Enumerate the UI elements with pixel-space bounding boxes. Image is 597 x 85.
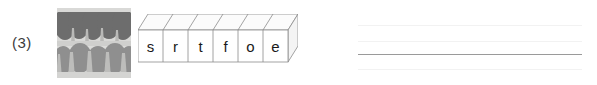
letter-box-row: s r t f o e bbox=[138, 14, 298, 68]
rule-line-3 bbox=[358, 54, 582, 55]
worksheet-exercise-row: (3) bbox=[0, 0, 597, 85]
letter-cell-6: e bbox=[271, 38, 279, 55]
letter-cell-1: s bbox=[147, 38, 155, 55]
rule-line-1 bbox=[358, 25, 582, 26]
forest-photo-graphic bbox=[57, 8, 131, 78]
letter-cell-2: r bbox=[173, 38, 178, 55]
rule-line-4 bbox=[358, 69, 582, 70]
forest-photo bbox=[57, 8, 131, 78]
letter-cell-5: o bbox=[246, 38, 254, 55]
letter-boxes-graphic: s r t f o e bbox=[138, 14, 298, 68]
rule-line-2 bbox=[358, 41, 582, 42]
item-number-label: (3) bbox=[12, 34, 32, 51]
answer-writing-area[interactable] bbox=[358, 0, 582, 85]
